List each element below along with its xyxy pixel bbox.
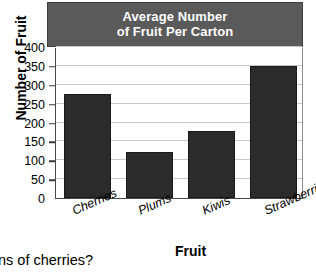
x-axis-title: Fruit xyxy=(175,243,206,259)
y-tick-label: 250 xyxy=(24,98,45,111)
y-tick-label: 300 xyxy=(24,80,45,93)
x-axis-labels: CherriesPlumsKiwisStrawberries xyxy=(0,199,316,259)
question-text-fragment: ns of cherries? xyxy=(0,252,93,268)
bar-series xyxy=(56,48,302,198)
y-tick-label: 200 xyxy=(24,117,45,130)
y-tick-label: 50 xyxy=(31,174,45,187)
y-tick-label: 350 xyxy=(24,61,45,74)
y-axis: 050100150200250300350400 xyxy=(0,48,55,199)
chart-title-bar: Average Number of Fruit Per Carton xyxy=(47,2,303,47)
gridline xyxy=(56,46,302,47)
bar-strawberries xyxy=(250,66,297,198)
y-tick-label: 150 xyxy=(24,136,45,149)
y-tick-label: 100 xyxy=(24,155,45,168)
bar-cherries xyxy=(64,94,111,198)
bar-kiwis xyxy=(188,131,235,198)
y-tick-label: 400 xyxy=(24,42,45,55)
chart-title-line-2: of Fruit Per Carton xyxy=(117,25,234,39)
plot-area xyxy=(55,48,303,199)
chart-title-line-1: Average Number xyxy=(123,10,228,24)
